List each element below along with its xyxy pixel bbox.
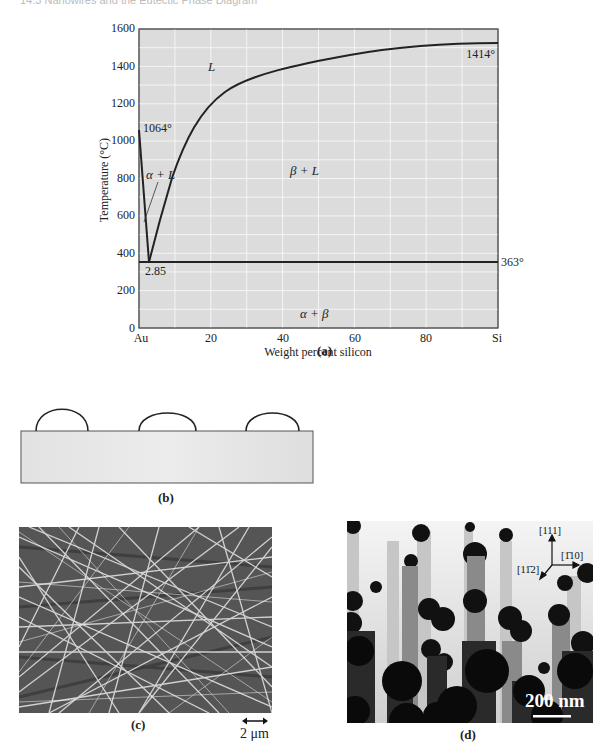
axis-110-label: [1̄10] <box>561 550 583 561</box>
svg-text:80: 80 <box>420 331 432 345</box>
svg-text:Au: Au <box>134 331 149 345</box>
phase-diagram-chart: 1600 1400 1200 1000 800 600 400 200 0 Au… <box>0 0 613 360</box>
panel-a-label: (a) <box>317 343 332 359</box>
axis-112-label: [11̄2] <box>517 564 539 575</box>
scale-bar-c-label: 2 μm <box>240 726 269 742</box>
svg-text:200: 200 <box>117 283 135 297</box>
panel-b-label: (b) <box>158 490 174 506</box>
si-melting-point-label: 1414° <box>466 47 495 61</box>
panel-c-label: (c) <box>131 717 145 733</box>
svg-text:400: 400 <box>117 246 135 260</box>
scale-bar-d-label: 200 nm <box>525 690 585 711</box>
svg-text:1600: 1600 <box>111 21 135 35</box>
region-alpha-liquid-label: α + L <box>146 167 175 182</box>
svg-text:600: 600 <box>117 208 135 222</box>
droplet-1 <box>36 409 88 431</box>
droplet-3 <box>246 413 299 431</box>
region-beta-liquid-label: β + L <box>289 163 319 178</box>
svg-text:1000: 1000 <box>111 133 135 147</box>
tem-nanowire-image: [111] [1̄10] [11̄2] 200 nm <box>347 521 593 723</box>
panel-d-label: (d) <box>460 727 476 743</box>
eutectic-temp-label: 363° <box>501 255 524 269</box>
droplet-2 <box>139 413 196 431</box>
region-liquid-label: L <box>207 59 215 74</box>
svg-text:800: 800 <box>117 171 135 185</box>
svg-text:Si: Si <box>492 331 503 345</box>
substrate <box>21 431 313 483</box>
eutectic-composition-label: 2.85 <box>145 264 166 278</box>
axis-111-label: [111] <box>539 525 561 536</box>
svg-text:60: 60 <box>349 331 361 345</box>
droplet-substrate-diagram <box>0 390 340 490</box>
svg-text:20: 20 <box>205 331 217 345</box>
y-axis-label: Temperature (°C) <box>97 138 111 222</box>
sem-nanowire-image <box>19 527 272 713</box>
y-axis-ticks: 1600 1400 1200 1000 800 600 400 200 0 <box>111 21 135 335</box>
svg-text:1200: 1200 <box>111 96 135 110</box>
svg-text:40: 40 <box>277 331 289 345</box>
region-alpha-beta-label: α + β <box>300 306 329 321</box>
svg-text:1400: 1400 <box>111 59 135 73</box>
scale-bar-arrow-icon <box>242 716 268 726</box>
au-melting-point-label: 1064° <box>143 121 172 135</box>
scale-bar-d <box>533 715 571 718</box>
